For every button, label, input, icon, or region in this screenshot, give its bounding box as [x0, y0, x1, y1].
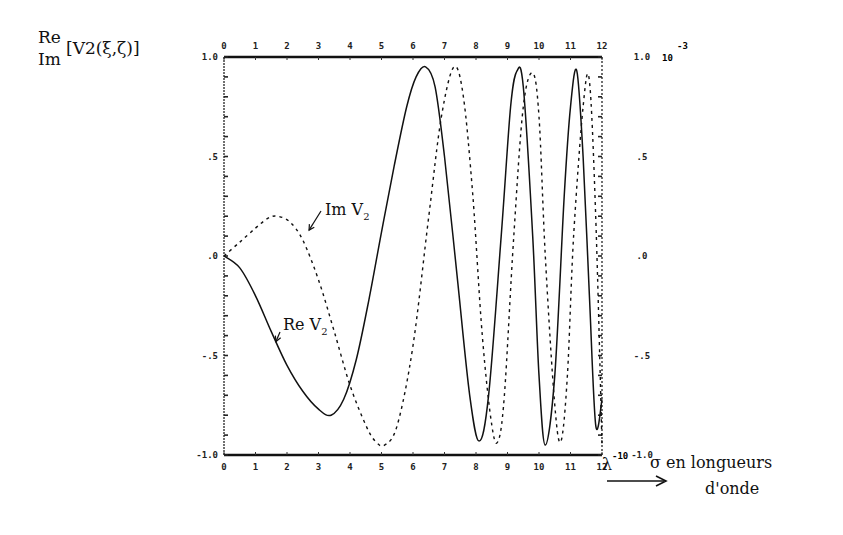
y-right-tick-label: .5	[637, 152, 648, 162]
y-label-expression: [V2(ξ,ζ)]	[66, 39, 140, 57]
y-left-tick-label: 1.0	[202, 52, 218, 62]
x-top-tick-label: 7	[442, 41, 447, 51]
y-right-tick-label: .0	[637, 251, 648, 261]
x-bottom-tick-label: 1	[253, 462, 258, 472]
x-top-tick-label: 3	[316, 41, 321, 51]
annotation-im-v2-label: Im V2	[325, 200, 370, 222]
x-bottom-tick-label: 9	[505, 462, 510, 472]
right-axis-multiplier-exponent: -3	[677, 41, 688, 51]
x-unit-exponent: -10	[612, 451, 628, 461]
x-bottom-tick-label: 2	[284, 462, 289, 472]
annotation-im-v2-text: Im V	[325, 200, 364, 219]
x-bottom-tick-label: 0	[221, 462, 226, 472]
y-left-tick-label: .0	[207, 251, 218, 261]
x-bottom-tick-label: 10	[534, 462, 545, 472]
x-unit-lambda: λ	[602, 455, 612, 474]
annotation-re-v2-label: Re V2	[283, 315, 328, 337]
annotation-im-v2-pointer	[309, 211, 321, 230]
annotation-re-v2-subscript: 2	[321, 326, 327, 337]
x-bottom-tick-label: 6	[410, 462, 415, 472]
y-left-tick-label: -.5	[202, 351, 218, 361]
x-bottom-tick-label: 11	[565, 462, 576, 472]
y-label-im: Im	[38, 50, 61, 68]
x-top-tick-label: 9	[505, 41, 510, 51]
x-top-tick-label: 0	[221, 41, 226, 51]
x-bottom-tick-label: 4	[347, 462, 353, 472]
x-axis-label-line1: σ en longueurs	[650, 453, 772, 472]
x-top-tick-label: 1	[253, 41, 258, 51]
series-re-v2-line	[224, 67, 602, 446]
x-top-tick-label: 8	[473, 41, 478, 51]
x-top-tick-label: 2	[284, 41, 289, 51]
x-bottom-tick-label: 5	[379, 462, 384, 472]
annotations-group: Im V2Re V2	[275, 200, 369, 342]
right-axis-multiplier-base: 10	[662, 53, 673, 63]
x-top-tick-label: 6	[410, 41, 415, 51]
x-bottom-tick-label: 3	[316, 462, 321, 472]
series-im-v2-line	[224, 66, 602, 446]
x-top-tick-label: 4	[347, 41, 353, 51]
x-top-tick-label: 5	[379, 41, 384, 51]
y-right-tick-label: 1.0	[634, 52, 650, 62]
x-bottom-tick-label: 7	[442, 462, 447, 472]
y-axis-left-ticks: 1.0.5.0-.5-1.0	[196, 52, 228, 460]
annotation-im-v2-subscript: 2	[363, 211, 369, 222]
x-top-tick-label: 10	[534, 41, 545, 51]
y-axis-right-ticks: 1.0.5.0-.5-1.0	[598, 52, 653, 460]
x-axis-label-line2: d'onde	[705, 479, 759, 498]
x-top-tick-label: 11	[565, 41, 576, 51]
series-group	[224, 66, 602, 446]
x-bottom-tick-label: 8	[473, 462, 478, 472]
right-axis-multiplier: 10 -3	[662, 41, 688, 63]
plot-frame	[224, 57, 602, 455]
y-label-re: Re	[38, 28, 61, 46]
x-top-tick-label: 12	[597, 41, 608, 51]
y-left-tick-label: -1.0	[196, 450, 218, 460]
y-left-tick-label: .5	[207, 152, 218, 162]
annotation-re-v2-text: Re V	[283, 315, 322, 334]
y-right-tick-label: -.5	[634, 351, 650, 361]
